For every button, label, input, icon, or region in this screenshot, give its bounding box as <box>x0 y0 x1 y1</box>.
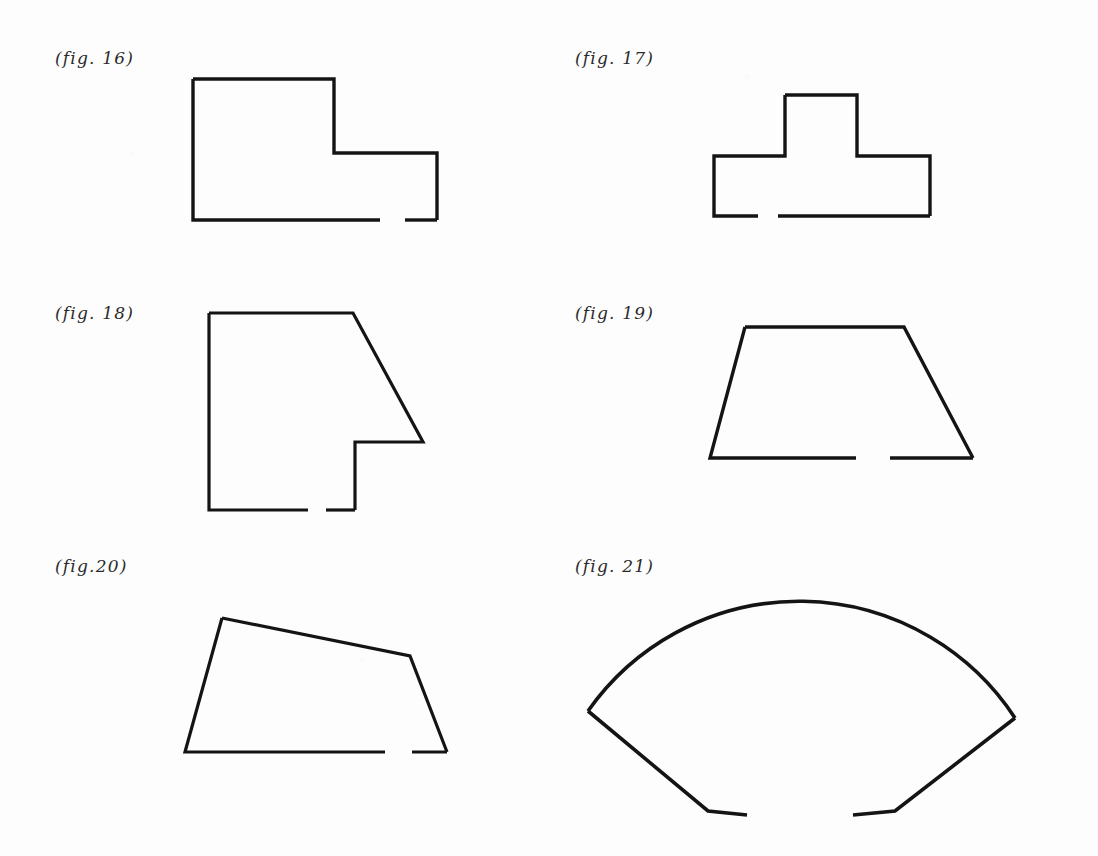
figure-drawing-fig-20 <box>170 585 490 775</box>
figure-label-fig-19: (fig. 19) <box>575 303 654 323</box>
figure-label-fig-16: (fig. 16) <box>55 48 134 68</box>
fig-17-outline-left <box>714 95 785 216</box>
figure-drawing-fig-21 <box>565 565 1035 835</box>
fig-21-left-radius <box>588 711 747 815</box>
figure-drawing-fig-16 <box>180 65 480 245</box>
fig-16-outline-lower <box>193 79 380 220</box>
fig-16-outline-upper <box>193 79 437 220</box>
figure-label-fig-20: (fig.20) <box>55 556 128 576</box>
fig-18-outline-left-bottom <box>209 313 308 510</box>
fig-19-outline-left-bottom <box>710 327 856 458</box>
document-page: (fig. 16) (fig. 17) (fig. 18) (fig. 19) … <box>0 0 1098 856</box>
figure-label-fig-18: (fig. 18) <box>55 303 134 323</box>
fig-17-outline-right <box>785 95 930 216</box>
fig-21-arc <box>588 601 1015 718</box>
fig-20-outline-left-bottom <box>185 618 385 752</box>
fig-18-outline-upper-notch <box>209 313 423 510</box>
fig-19-outline-top-right <box>745 327 973 458</box>
fig-21-right-radius <box>853 718 1015 815</box>
fig-20-outline-top-right <box>222 618 447 752</box>
figure-label-fig-17: (fig. 17) <box>575 48 654 68</box>
figure-drawing-fig-17 <box>690 60 990 240</box>
figure-drawing-fig-18 <box>195 305 495 535</box>
figure-drawing-fig-19 <box>690 310 1010 490</box>
